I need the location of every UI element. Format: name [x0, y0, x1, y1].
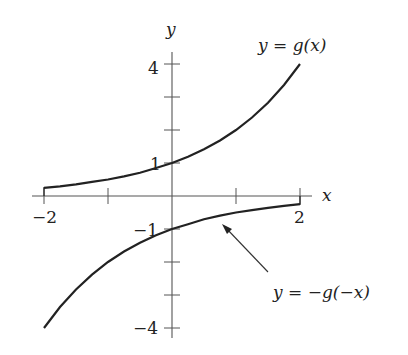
curve-g-label: y = g(x) [257, 35, 326, 55]
annotation-arrow-line [226, 228, 268, 272]
x-axis-label: x [322, 185, 332, 205]
y-tick-label-neg4: −4 [133, 318, 158, 338]
x-tick-label-2: 2 [294, 207, 305, 227]
function-graph: y x 4 1 −1 −4 −2 2 y = g(x) y = −g(−x) [0, 0, 408, 355]
y-axis-label: y [165, 19, 176, 39]
x-tick-label-neg2: −2 [32, 207, 57, 227]
y-tick-label-neg1: −1 [133, 220, 158, 240]
curve-neg-g-label: y = −g(−x) [272, 282, 370, 302]
y-tick-label-4: 4 [148, 58, 159, 78]
y-tick-label-1: 1 [150, 154, 161, 174]
